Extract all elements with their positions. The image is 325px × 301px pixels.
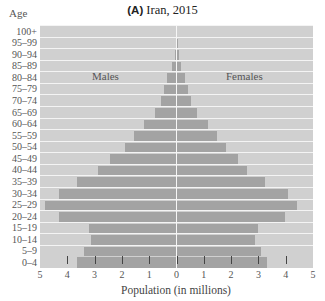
female-bar <box>177 257 268 268</box>
female-bar <box>177 247 261 257</box>
age-tick-label: 100+ <box>0 26 37 37</box>
female-bar <box>177 154 239 164</box>
male-bar <box>144 120 177 130</box>
female-bar <box>177 189 288 199</box>
age-tick-label: 60–64 <box>0 118 37 129</box>
x-tick-label: 5 <box>33 269 47 280</box>
x-tick <box>149 256 150 264</box>
male-bar <box>161 96 176 106</box>
male-bar <box>77 257 176 268</box>
x-tick-label: 2 <box>224 269 238 280</box>
x-axis-label: Population (in millions) <box>0 284 325 296</box>
age-tick-label: 15–19 <box>0 222 37 233</box>
female-bar <box>177 235 256 245</box>
female-bar <box>177 201 297 211</box>
males-label: Males <box>92 70 119 82</box>
female-bar <box>177 120 208 130</box>
male-bar <box>155 108 176 118</box>
age-tick-label: 10–14 <box>0 234 37 245</box>
female-bar <box>177 212 285 222</box>
male-bar <box>84 247 177 257</box>
age-tick-label: 65–69 <box>0 107 37 118</box>
female-bar <box>177 62 182 72</box>
male-bar <box>77 177 176 187</box>
age-tick-label: 50–54 <box>0 141 37 152</box>
male-bar <box>110 154 176 164</box>
male-bar <box>125 143 176 153</box>
female-bar <box>177 108 197 118</box>
age-tick-label: 30–34 <box>0 188 37 199</box>
female-bar <box>177 96 191 106</box>
x-tick <box>177 256 178 264</box>
x-tick-label: 2 <box>115 269 129 280</box>
age-tick-label: 0–4 <box>0 257 37 268</box>
female-bar <box>177 166 248 176</box>
y-axis-label: Age <box>9 7 27 19</box>
age-tick-label: 70–74 <box>0 95 37 106</box>
chart-title: (A) Iran, 2015 <box>0 3 325 18</box>
female-bar <box>177 73 185 83</box>
chart-title-tag: (A) <box>127 4 143 16</box>
x-tick-label: 3 <box>88 269 102 280</box>
female-bar <box>177 224 258 234</box>
female-bar <box>177 85 188 95</box>
age-tick-label: 20–24 <box>0 211 37 222</box>
male-bar <box>134 131 177 141</box>
x-tick-label: 1 <box>197 269 211 280</box>
male-bar <box>164 85 176 95</box>
x-tick-label: 4 <box>279 269 293 280</box>
plot-area <box>40 25 313 268</box>
male-bar <box>45 201 176 211</box>
female-bar <box>177 131 218 141</box>
female-bar <box>177 143 227 153</box>
x-tick-label: 0 <box>170 269 184 280</box>
x-tick <box>286 256 287 264</box>
age-tick-label: 25–29 <box>0 199 37 210</box>
male-bar <box>59 189 177 199</box>
female-bar <box>177 177 266 187</box>
age-tick-label: 75–79 <box>0 83 37 94</box>
age-tick-label: 45–49 <box>0 153 37 164</box>
females-label: Females <box>226 70 263 82</box>
zero-line <box>176 25 177 268</box>
age-tick-label: 90–94 <box>0 49 37 60</box>
age-tick-label: 55–59 <box>0 130 37 141</box>
x-tick <box>204 256 205 264</box>
x-tick <box>122 256 123 264</box>
x-tick-label: 3 <box>251 269 265 280</box>
age-tick-label: 5–9 <box>0 245 37 256</box>
age-tick-label: 80–84 <box>0 72 37 83</box>
x-tick <box>231 256 232 264</box>
x-tick <box>258 256 259 264</box>
age-tick-label: 40–44 <box>0 164 37 175</box>
x-tick-label: 5 <box>306 269 320 280</box>
age-tick-label: 35–39 <box>0 176 37 187</box>
x-tick <box>67 256 68 264</box>
age-tick-label: 85–89 <box>0 60 37 71</box>
male-bar <box>89 224 177 234</box>
x-tick <box>95 256 96 264</box>
chart-title-text: Iran, 2015 <box>146 3 197 17</box>
x-tick-label: 4 <box>60 269 74 280</box>
male-bar <box>91 235 177 245</box>
male-bar <box>98 166 176 176</box>
x-tick-label: 1 <box>142 269 156 280</box>
age-tick-label: 95–99 <box>0 37 37 48</box>
male-bar <box>59 212 176 222</box>
